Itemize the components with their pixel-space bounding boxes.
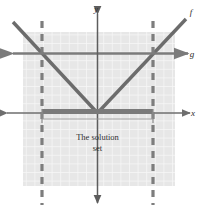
solution-set-caption-line1: The solution <box>76 132 119 142</box>
function-g-label: g <box>190 49 195 59</box>
solution-set-caption-line2: set <box>93 143 103 153</box>
x-axis-label: x <box>190 108 195 118</box>
graph-canvas: y x f g The solution set <box>0 0 201 212</box>
absolute-value-inequality-figure: y x f g The solution set <box>0 0 201 212</box>
function-f-label: f <box>190 7 194 17</box>
y-axis-label: y <box>93 4 98 14</box>
